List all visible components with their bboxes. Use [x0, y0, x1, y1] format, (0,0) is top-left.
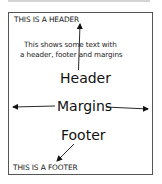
header-label: Header — [60, 70, 111, 86]
page-frame — [8, 12, 153, 175]
body-text-line-2: a header, footer and margins — [20, 50, 123, 59]
page-top-shadow — [8, 0, 150, 2]
footer-label: Footer — [61, 127, 106, 143]
margins-label: Margins — [57, 98, 112, 114]
page-header-text: THIS IS A HEADER — [14, 15, 79, 24]
body-text-line-1: This shows some text with — [24, 40, 117, 49]
page-footer-text: THIS IS A FOOTER — [13, 163, 78, 172]
